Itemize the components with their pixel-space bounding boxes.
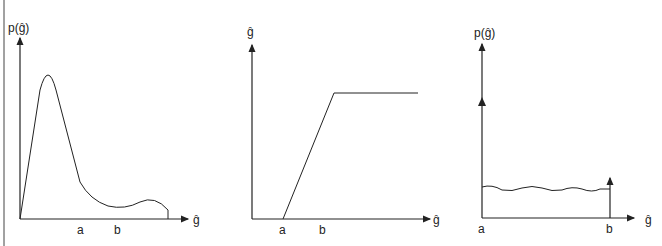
tick-a: a xyxy=(279,223,286,237)
x-axis-label: ĝ xyxy=(433,213,440,227)
tick-b: b xyxy=(319,223,326,237)
transfer-line xyxy=(283,93,418,219)
diagram-canvas: p(ĝ) ĝ a b ĝ ĝ a b p(ĝ) ĝ a b xyxy=(0,0,662,246)
tick-b: b xyxy=(606,222,613,236)
panel-transfer-function: ĝ ĝ a b xyxy=(247,25,440,237)
impulse-a-arrowhead xyxy=(478,97,486,106)
tick-b: b xyxy=(114,223,121,237)
y-axis-label: p(ĝ) xyxy=(8,21,29,35)
histogram-curve xyxy=(20,75,168,219)
panel-histogram-output: p(ĝ) ĝ a b xyxy=(474,26,652,236)
uniform-curve xyxy=(482,186,610,191)
panel-histogram-input: p(ĝ) ĝ a b xyxy=(8,21,200,237)
x-axis-label: ĝ xyxy=(645,213,652,227)
tick-a: a xyxy=(478,222,485,236)
figure: p(ĝ) ĝ a b ĝ ĝ a b p(ĝ) ĝ a b xyxy=(0,0,662,246)
y-axis-label: ĝ xyxy=(247,25,254,39)
x-axis-label: ĝ xyxy=(193,213,200,227)
y-axis-label: p(ĝ) xyxy=(474,26,495,40)
tick-a: a xyxy=(77,223,84,237)
